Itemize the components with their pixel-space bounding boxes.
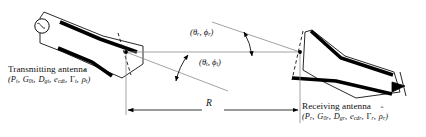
tx-param-ecd: ecdt [54,75,65,84]
rx-node-point [298,50,302,54]
friis-transmission-figure: Transmitting antenna (Pt, G0t, Dgt, ecdt… [0,0,426,137]
tx-param-rho-hat: ̂ρt [82,75,88,85]
transmit-angle-label: (θt, ϕt) [199,58,221,68]
tx-param-Dg: Dgt [38,75,49,84]
tx-node-point [124,50,128,54]
theta-t-arc [176,55,188,81]
angle-r-close: ) [210,27,213,37]
rx-horn-outline [303,30,400,98]
rx-param-gamma: Γr [367,112,374,121]
receiving-antenna-graphic [292,30,406,98]
angle-t-close: ) [218,57,221,67]
receive-angle-label: (θr, ϕr) [190,28,213,38]
rx-param-rho-hat: ̂ρr [379,112,385,122]
transmitting-antenna-name: Transmitting antenna [8,64,90,75]
receiving-antenna-params: (Pr, G0r, Dgr, ecdr, Γr, ̂ρr) [302,112,388,122]
rx-end-wall [400,72,406,96]
tx-param-P: Pt [11,75,18,84]
transmitting-antenna-label: Transmitting antenna (Pt, G0t, Dgt, ecdt… [8,64,90,84]
tx-param-gamma: Γt [70,75,77,84]
tx-param-G0: G0t [23,75,34,84]
tx-paren-close: ) [87,75,90,84]
rx-param-Dg: Dgr [334,112,345,121]
rx-aperture-plane [292,31,303,80]
rx-boresight-ray [212,22,300,52]
transmitting-antenna-params: (Pt, G0t, Dgt, ecdt, Γt, ̂ρt) [8,75,90,85]
distance-label: R [206,97,212,108]
rx-param-G0: G0r [317,112,328,121]
receiving-antenna-label: Receiving antenna (Pr, G0r, Dgr, ecdr, Γ… [302,101,388,121]
rx-paren-close: ) [385,112,388,121]
receiving-antenna-name: Receiving antenna [302,101,388,112]
rx-param-P: Pr [305,112,312,121]
rx-param-ecd: ecdr [350,112,362,121]
